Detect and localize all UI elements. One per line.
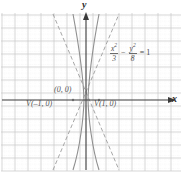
- x-axis-label: x: [172, 94, 177, 104]
- equation-term-2: y2 8: [128, 42, 138, 63]
- equation-term-2-denominator: 8: [129, 53, 137, 63]
- vertex-right-label: V(1, 0): [94, 100, 116, 108]
- plot-svg: [0, 12, 182, 172]
- figure-container: y x (0, 0) V(–1, 0) V(1, 0) x2 3 − y2 8 …: [0, 0, 182, 184]
- equation-term-2-numerator: y2: [128, 42, 138, 53]
- equation-term-1-numerator: x2: [109, 42, 119, 53]
- equation-operator: −: [121, 48, 126, 57]
- hyperbola-plot: [0, 12, 182, 172]
- equation-annotation: x2 3 − y2 8 = 1: [108, 42, 151, 63]
- equation-equals: = 1: [140, 48, 151, 57]
- y-axis-label: y: [82, 0, 86, 10]
- vertex-left-marker: [72, 99, 74, 101]
- equation-term-1-denominator: 3: [110, 53, 118, 63]
- equation-term-1: x2 3: [109, 42, 119, 63]
- center-marker: [85, 99, 87, 101]
- vertex-left-label: V(–1, 0): [26, 100, 52, 108]
- center-label: (0, 0): [54, 86, 71, 94]
